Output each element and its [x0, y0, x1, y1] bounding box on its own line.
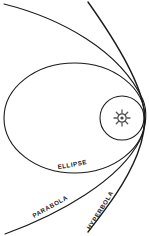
ellipse-curve — [4, 63, 145, 173]
ellipse-label: ELLIPSE — [57, 158, 88, 170]
orbit-diagram: ELLIPSE PARABOLA HYPERBOLA — [0, 0, 149, 236]
sun-icon — [114, 110, 130, 126]
conic-sections-figure: ELLIPSE PARABOLA HYPERBOLA — [0, 0, 149, 236]
hyperbola-label: HYPERBOLA — [85, 189, 114, 230]
hyperbola-curve — [88, 2, 145, 232]
parabola-curve — [4, 4, 146, 234]
